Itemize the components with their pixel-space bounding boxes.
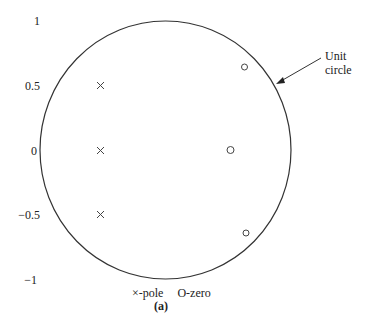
pole-marker	[97, 82, 104, 89]
unit-circle-label: Unit circle	[325, 49, 352, 77]
pole-marker	[97, 147, 104, 154]
y-tick-label: −0.5	[0, 209, 40, 221]
legend-pole: ×-pole	[132, 286, 163, 300]
pole-marker	[97, 211, 104, 218]
unit-circle	[40, 21, 291, 279]
annotation-line-2: circle	[325, 63, 352, 77]
arrowhead-icon	[276, 77, 285, 84]
y-tick-label: 0	[0, 145, 37, 157]
y-tick-label: 1	[0, 15, 40, 27]
annotation-arrow	[281, 58, 321, 81]
zero-marker	[242, 64, 248, 70]
figure-caption: (a)	[154, 299, 168, 314]
legend: ×-pole O-zero	[132, 286, 211, 301]
annotation-line-1: Unit	[325, 49, 352, 63]
pole-zero-plot	[0, 0, 368, 330]
legend-zero: O-zero	[177, 286, 210, 300]
y-tick-label: −1	[0, 274, 37, 286]
y-tick-label: 0.5	[0, 80, 40, 92]
zero-marker	[227, 147, 234, 154]
zero-marker	[243, 230, 249, 236]
